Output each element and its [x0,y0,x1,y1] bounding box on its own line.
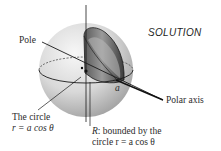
pole-point [84,69,87,72]
region-label-line2: circle r = a cos θ [92,137,155,147]
pole-label: Pole [19,35,36,45]
polar-axis-label: Polar axis [166,95,204,105]
point-a-label: a [115,83,120,93]
region-label-line1: R: bounded by the [92,126,161,136]
solution-heading: SOLUTION [148,27,202,38]
circle-label-equation: r = a cos θ [12,123,54,133]
center-point [81,67,83,69]
circle-label-title: The circle [12,112,50,122]
circle-eq-rest: = a cos θ [16,123,54,133]
region-line1-rest: : bounded by the [98,126,162,136]
